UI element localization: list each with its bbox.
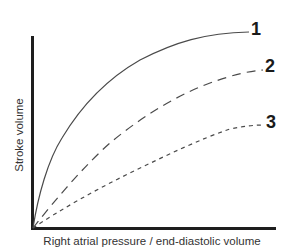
curve-3-label: 3	[266, 112, 276, 132]
curve-1-solid	[33, 32, 249, 228]
curve-labels: 1 2 3	[251, 19, 276, 132]
curve-3-short-dashed	[33, 125, 264, 228]
y-axis-label: Stroke volume	[13, 98, 25, 172]
curve-2-label: 2	[265, 56, 275, 76]
curve-1-label: 1	[251, 19, 261, 39]
axes	[31, 36, 276, 230]
frank-starling-chart: 1 2 3 Stroke volume Right atrial pressur…	[0, 0, 293, 247]
x-axis-label: Right atrial pressure / end-diastolic vo…	[43, 235, 260, 247]
curves	[33, 32, 264, 228]
curve-2-long-dashed	[33, 70, 263, 228]
